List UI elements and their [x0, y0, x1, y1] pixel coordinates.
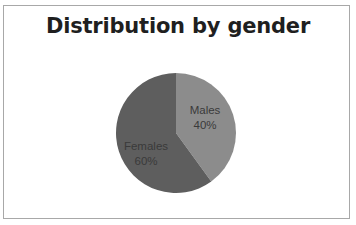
label-females-percent: 60% — [134, 155, 157, 167]
label-males-percent: 40% — [193, 119, 216, 131]
label-males-name: Males — [190, 104, 221, 116]
pie-slices — [116, 73, 236, 193]
label-females-name: Females — [124, 140, 168, 152]
pie-chart: Males 40% Females 60% — [0, 0, 356, 225]
